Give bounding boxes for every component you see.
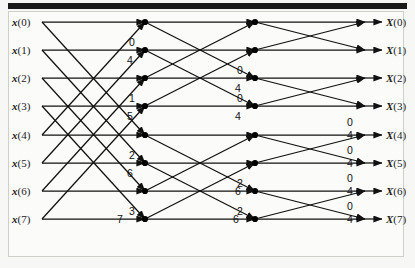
output-label-7: X(7)	[385, 213, 407, 226]
twiddle-stage2-7: 6	[233, 213, 239, 225]
node-stage1-6	[142, 188, 148, 194]
node-stage2-5	[252, 160, 258, 166]
twiddle-stage1-2: 1	[129, 92, 135, 104]
node-stage1-1	[142, 47, 148, 53]
node-stage1-7	[142, 216, 148, 222]
input-label-6: x(6)	[11, 185, 31, 198]
label-layer: x(0)x(1)x(2)x(3)x(4)x(5)x(6)x(7)X(0)X(1)…	[11, 16, 407, 226]
node-stage2-0	[252, 19, 258, 25]
twiddle-stage1-0: 0	[129, 36, 135, 48]
input-label-3: x(3)	[11, 100, 31, 113]
twiddle-stage3-1: 4	[347, 129, 353, 141]
twiddle-stage1-6: 3	[129, 205, 135, 217]
input-label-4: x(4)	[11, 129, 31, 142]
node-stage2-2	[252, 75, 258, 81]
twiddle-stage3-4: 0	[347, 172, 353, 184]
twiddle-stage3-3: 4	[347, 157, 353, 169]
twiddle-stage3-7: 4	[347, 213, 353, 225]
node-stage2-7	[252, 216, 258, 222]
output-label-1: X(1)	[385, 44, 407, 57]
twiddle-stage3-5: 4	[347, 185, 353, 197]
twiddle-stage2-3: 4	[235, 110, 241, 122]
output-label-6: X(6)	[385, 185, 407, 198]
output-label-0: X(0)	[385, 16, 407, 29]
flow-graph: x(0)x(1)x(2)x(3)x(4)x(5)x(6)x(7)X(0)X(1)…	[0, 0, 415, 268]
output-label-2: X(2)	[385, 72, 407, 85]
input-label-5: x(5)	[11, 157, 31, 170]
node-stage2-3	[252, 103, 258, 109]
node-stage2-6	[252, 188, 258, 194]
twiddle-stage1-1: 4	[127, 54, 133, 66]
output-label-3: X(3)	[385, 100, 407, 113]
twiddle-stage2-5: 6	[235, 185, 241, 197]
twiddle-stage3-0: 0	[347, 116, 353, 128]
twiddle-stage1-3: 5	[127, 110, 133, 122]
node-stage2-4	[252, 132, 258, 138]
twiddle-stage2-0: 0	[237, 64, 243, 76]
node-stage1-0	[142, 19, 148, 25]
edge-layer	[42, 22, 382, 219]
butterfly-svg: x(0)x(1)x(2)x(3)x(4)x(5)x(6)x(7)X(0)X(1)…	[0, 0, 415, 268]
output-label-5: X(5)	[385, 157, 407, 170]
output-label-4: X(4)	[385, 129, 407, 142]
input-label-2: x(2)	[11, 72, 31, 85]
twiddle-stage3-2: 0	[347, 144, 353, 156]
twiddle-stage1-4: 2	[129, 149, 135, 161]
node-stage1-4	[142, 132, 148, 138]
node-stage1-3	[142, 103, 148, 109]
twiddle-stage3-6: 0	[347, 200, 353, 212]
node-stage1-2	[142, 75, 148, 81]
input-label-1: x(1)	[11, 44, 31, 57]
twiddle-stage2-2: 0	[237, 92, 243, 104]
input-label-7: x(7)	[11, 213, 31, 226]
node-stage1-5	[142, 160, 148, 166]
node-stage2-1	[252, 47, 258, 53]
figure-canvas: x(0)x(1)x(2)x(3)x(4)x(5)x(6)x(7)X(0)X(1)…	[0, 0, 415, 268]
twiddle-stage1-7: 7	[117, 213, 123, 225]
input-label-0: x(0)	[11, 16, 31, 29]
twiddle-stage1-5: 6	[127, 167, 133, 179]
